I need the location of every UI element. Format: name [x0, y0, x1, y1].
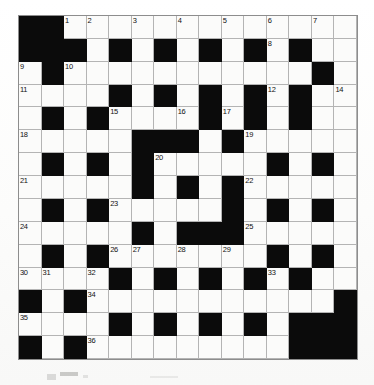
grid-open-cell[interactable]: [267, 176, 290, 199]
grid-open-cell[interactable]: 33: [267, 268, 290, 291]
grid-open-cell[interactable]: [42, 313, 65, 336]
grid-open-cell[interactable]: 24: [19, 222, 42, 245]
grid-open-cell[interactable]: [109, 130, 132, 153]
grid-open-cell[interactable]: [64, 176, 87, 199]
grid-open-cell[interactable]: 19: [244, 130, 267, 153]
grid-open-cell[interactable]: [334, 199, 357, 222]
grid-open-cell[interactable]: [19, 199, 42, 222]
crossword-grid[interactable]: 1234567891011121415161718192021222324252…: [18, 15, 358, 360]
grid-open-cell[interactable]: [267, 313, 290, 336]
grid-open-cell[interactable]: [177, 62, 200, 85]
grid-open-cell[interactable]: 36: [87, 336, 110, 359]
grid-open-cell[interactable]: [289, 16, 312, 39]
grid-open-cell[interactable]: [87, 176, 110, 199]
grid-open-cell[interactable]: [109, 16, 132, 39]
grid-open-cell[interactable]: [132, 39, 155, 62]
grid-open-cell[interactable]: [244, 336, 267, 359]
grid-open-cell[interactable]: [132, 199, 155, 222]
grid-open-cell[interactable]: 17: [222, 107, 245, 130]
grid-open-cell[interactable]: [289, 130, 312, 153]
grid-open-cell[interactable]: [222, 62, 245, 85]
grid-open-cell[interactable]: [199, 16, 222, 39]
grid-open-cell[interactable]: [109, 153, 132, 176]
grid-open-cell[interactable]: 5: [222, 16, 245, 39]
grid-open-cell[interactable]: [64, 222, 87, 245]
grid-open-cell[interactable]: 28: [177, 245, 200, 268]
grid-open-cell[interactable]: [244, 290, 267, 313]
grid-open-cell[interactable]: 15: [109, 107, 132, 130]
grid-open-cell[interactable]: [109, 336, 132, 359]
grid-open-cell[interactable]: [222, 268, 245, 291]
grid-open-cell[interactable]: 9: [19, 62, 42, 85]
grid-open-cell[interactable]: [132, 290, 155, 313]
grid-open-cell[interactable]: [19, 245, 42, 268]
grid-open-cell[interactable]: 3: [132, 16, 155, 39]
grid-open-cell[interactable]: [312, 290, 335, 313]
grid-open-cell[interactable]: [312, 85, 335, 108]
grid-open-cell[interactable]: [87, 313, 110, 336]
grid-open-cell[interactable]: [289, 176, 312, 199]
grid-open-cell[interactable]: 34: [87, 290, 110, 313]
grid-open-cell[interactable]: 22: [244, 176, 267, 199]
grid-open-cell[interactable]: [312, 107, 335, 130]
grid-open-cell[interactable]: 31: [42, 268, 65, 291]
grid-open-cell[interactable]: 20: [154, 153, 177, 176]
grid-open-cell[interactable]: [222, 153, 245, 176]
grid-open-cell[interactable]: 23: [109, 199, 132, 222]
grid-open-cell[interactable]: [244, 245, 267, 268]
grid-open-cell[interactable]: [154, 176, 177, 199]
grid-open-cell[interactable]: [87, 62, 110, 85]
grid-open-cell[interactable]: 30: [19, 268, 42, 291]
grid-open-cell[interactable]: [19, 153, 42, 176]
grid-open-cell[interactable]: [199, 176, 222, 199]
grid-open-cell[interactable]: [289, 245, 312, 268]
grid-open-cell[interactable]: 14: [334, 85, 357, 108]
grid-open-cell[interactable]: [267, 130, 290, 153]
grid-open-cell[interactable]: [132, 85, 155, 108]
grid-open-cell[interactable]: [42, 130, 65, 153]
grid-open-cell[interactable]: [334, 153, 357, 176]
grid-open-cell[interactable]: [312, 176, 335, 199]
grid-open-cell[interactable]: 4: [177, 16, 200, 39]
grid-open-cell[interactable]: [289, 153, 312, 176]
grid-open-cell[interactable]: [199, 153, 222, 176]
grid-open-cell[interactable]: [154, 107, 177, 130]
grid-open-cell[interactable]: 1: [64, 16, 87, 39]
grid-open-cell[interactable]: [64, 245, 87, 268]
grid-open-cell[interactable]: [132, 313, 155, 336]
grid-open-cell[interactable]: [42, 336, 65, 359]
grid-open-cell[interactable]: [154, 222, 177, 245]
grid-open-cell[interactable]: [244, 153, 267, 176]
grid-open-cell[interactable]: [64, 85, 87, 108]
grid-open-cell[interactable]: [154, 336, 177, 359]
grid-open-cell[interactable]: [267, 290, 290, 313]
grid-open-cell[interactable]: 18: [19, 130, 42, 153]
grid-open-cell[interactable]: 27: [132, 245, 155, 268]
grid-open-cell[interactable]: [289, 222, 312, 245]
grid-open-cell[interactable]: 2: [87, 16, 110, 39]
grid-open-cell[interactable]: [87, 39, 110, 62]
grid-open-cell[interactable]: [289, 290, 312, 313]
grid-open-cell[interactable]: [222, 313, 245, 336]
grid-open-cell[interactable]: [244, 199, 267, 222]
grid-open-cell[interactable]: [177, 336, 200, 359]
grid-open-cell[interactable]: [42, 290, 65, 313]
grid-open-cell[interactable]: [289, 199, 312, 222]
grid-open-cell[interactable]: [87, 85, 110, 108]
grid-open-cell[interactable]: [199, 130, 222, 153]
grid-open-cell[interactable]: [87, 130, 110, 153]
grid-open-cell[interactable]: [244, 62, 267, 85]
grid-open-cell[interactable]: [177, 85, 200, 108]
grid-open-cell[interactable]: [312, 268, 335, 291]
grid-open-cell[interactable]: [64, 313, 87, 336]
grid-open-cell[interactable]: [87, 222, 110, 245]
grid-open-cell[interactable]: [222, 85, 245, 108]
grid-open-cell[interactable]: [177, 39, 200, 62]
grid-open-cell[interactable]: [312, 222, 335, 245]
grid-open-cell[interactable]: 12: [267, 85, 290, 108]
grid-open-cell[interactable]: 25: [244, 222, 267, 245]
grid-open-cell[interactable]: [199, 336, 222, 359]
grid-open-cell[interactable]: 32: [87, 268, 110, 291]
grid-open-cell[interactable]: [64, 130, 87, 153]
grid-open-cell[interactable]: [42, 85, 65, 108]
